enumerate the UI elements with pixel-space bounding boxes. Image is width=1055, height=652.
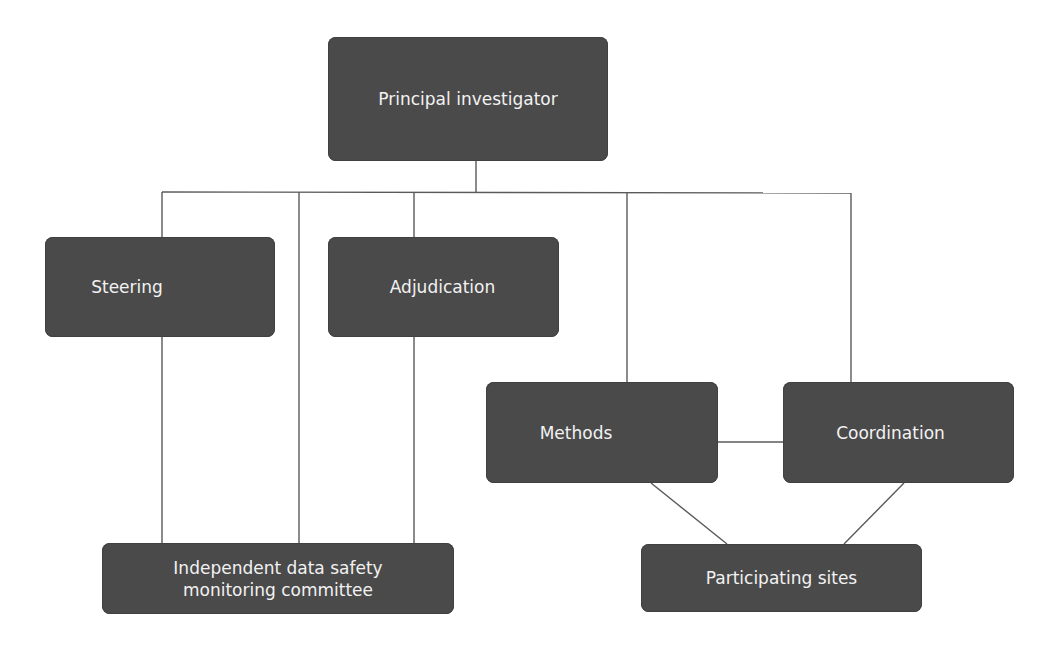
node-label: Participating sites: [706, 567, 857, 589]
node-label-line2: monitoring committee: [173, 579, 382, 601]
node-adjudication: Adjudication: [328, 237, 559, 337]
node-coordination: Coordination: [783, 382, 1014, 483]
connector-coordination-to-sites: [844, 483, 904, 544]
node-label: Methods: [540, 422, 613, 444]
connector-bus: [162, 192, 851, 193]
node-label-wrapper: Independent data safety monitoring commi…: [173, 557, 382, 601]
org-chart-diagram: Principal investigator Steering Adjudica…: [0, 0, 1055, 652]
node-label-line1: Independent data safety: [173, 557, 382, 579]
node-label: Principal investigator: [378, 88, 557, 110]
connector-methods-to-sites: [651, 483, 727, 544]
node-independent-data-safety-monitoring-committee: Independent data safety monitoring commi…: [102, 543, 454, 614]
node-label: Coordination: [836, 422, 945, 444]
node-label: Steering: [91, 276, 163, 298]
node-label: Adjudication: [390, 276, 495, 298]
node-methods: Methods: [486, 382, 718, 483]
node-principal-investigator: Principal investigator: [328, 37, 608, 161]
node-participating-sites: Participating sites: [641, 544, 922, 612]
node-steering: Steering: [45, 237, 275, 337]
